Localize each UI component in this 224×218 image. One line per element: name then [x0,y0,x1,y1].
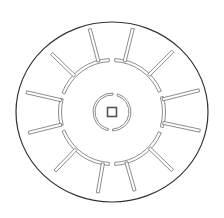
inner-ring-segment [62,130,109,165]
spoke-wall [28,123,62,134]
center-goal-square [108,108,117,117]
spoke-wall [163,121,201,132]
spoke-wall [125,162,136,192]
inner-ring-segment [59,98,64,126]
inner-ring-segment [115,59,162,93]
spoke-wall [123,28,134,62]
spoke-wall [162,89,200,101]
spoke-wall [26,91,62,102]
spoke-wall [148,147,173,171]
spoke-wall [148,50,174,76]
spoke-wall [54,148,77,172]
spoke-walls [26,28,200,193]
core-ring-segment [93,93,113,131]
core-ring-segment [113,94,131,131]
core-ring [93,93,131,131]
spoke-wall [88,29,100,63]
outer-ring [16,22,208,202]
inner-ring-segment [115,132,162,166]
spoke-wall [51,53,76,77]
maze-diagram [0,0,224,218]
spoke-wall [96,163,104,193]
inner-ring-segment [62,59,109,94]
maze-canvas [0,0,224,218]
